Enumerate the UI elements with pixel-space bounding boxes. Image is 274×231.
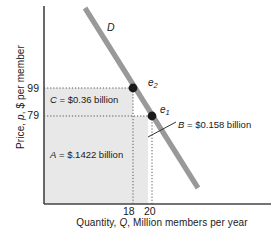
x-tick-label-20: 20 xyxy=(144,206,156,217)
chart-plot-area xyxy=(0,0,274,231)
point-e2-marker xyxy=(129,84,138,93)
point-e2-label-subscript: 2 xyxy=(154,81,158,90)
region-b-label: B = $0.158 billion xyxy=(178,120,251,130)
x-axis-title: Quantity, Q, Million members per year xyxy=(52,218,272,228)
point-e1-label: e1 xyxy=(160,105,170,117)
point-e1-label-subscript: 1 xyxy=(166,108,170,117)
y-tick-label-99: 99 xyxy=(17,83,39,94)
region-a-label: A = $.1422 billion xyxy=(50,150,123,160)
point-e2-label: e2 xyxy=(148,78,158,90)
y-axis-title: Price, p, $ per member xyxy=(16,34,26,160)
y-tick-label-79: 79 xyxy=(17,110,39,121)
region-c-label: C = $0.36 billion xyxy=(50,95,118,105)
demand-curve-label: D xyxy=(107,22,115,33)
x-tick-label-18: 18 xyxy=(123,206,135,217)
region-a-shape xyxy=(44,116,148,204)
supply-demand-figure: Price, p, $ per member Quantity, Q, Mill… xyxy=(0,0,274,231)
point-e1-marker xyxy=(148,112,157,121)
